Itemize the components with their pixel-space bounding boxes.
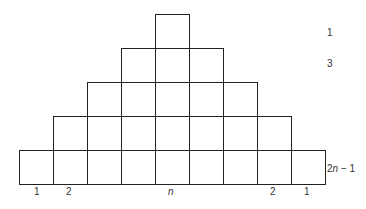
- pyramid-square: [121, 48, 156, 83]
- pyramid-square: [121, 150, 156, 185]
- pyramid-square: [189, 150, 224, 185]
- bottom-label-2-right: 2: [270, 187, 276, 197]
- pyramid-square: [189, 116, 224, 151]
- pyramid-square: [257, 116, 292, 151]
- pyramid-square: [87, 116, 122, 151]
- pyramid-square: [155, 116, 190, 151]
- pyramid-square: [155, 48, 190, 83]
- pyramid-square: [53, 150, 88, 185]
- pyramid-square: [155, 82, 190, 117]
- pyramid-square: [155, 150, 190, 185]
- bottom-label-1-right: 1: [304, 187, 310, 197]
- bottom-label-1-left: 1: [34, 187, 40, 197]
- bottom-label-2-left: 2: [66, 187, 72, 197]
- row-label-suffix: − 1: [338, 163, 355, 174]
- row-label-2n-minus-1: 2n − 1: [327, 164, 355, 174]
- pyramid-square: [257, 150, 292, 185]
- pyramid-square: [223, 150, 258, 185]
- row-label-3: 3: [327, 59, 333, 69]
- square-pyramid-diagram: 1 3 2n − 1 1 2 n 2 1: [0, 0, 366, 209]
- pyramid-square: [155, 14, 190, 49]
- pyramid-square: [223, 82, 258, 117]
- pyramid-square: [121, 82, 156, 117]
- pyramid-square: [121, 116, 156, 151]
- pyramid-square: [223, 116, 258, 151]
- pyramid-square: [189, 48, 224, 83]
- row-label-1: 1: [327, 28, 333, 38]
- pyramid-square: [189, 82, 224, 117]
- pyramid-square: [87, 82, 122, 117]
- pyramid-square: [291, 150, 326, 185]
- pyramid-square: [53, 116, 88, 151]
- pyramid-square: [19, 150, 54, 185]
- pyramid-square: [87, 150, 122, 185]
- bottom-label-n: n: [168, 187, 174, 197]
